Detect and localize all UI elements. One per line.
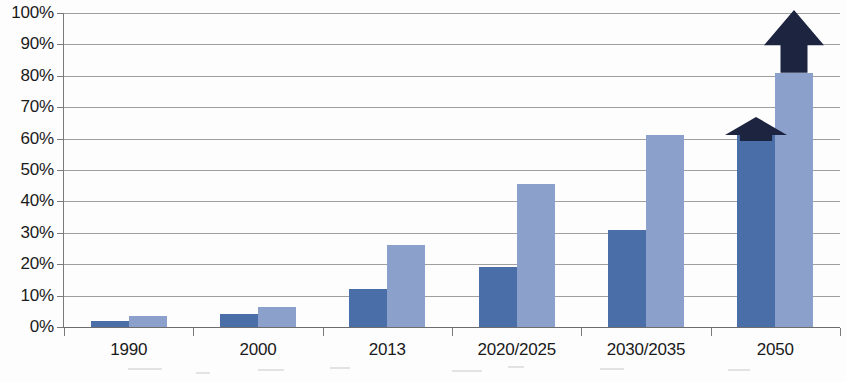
y-tick-mark-40 xyxy=(57,201,64,202)
x-tick-mark-5 xyxy=(711,328,712,336)
gridline-80 xyxy=(64,76,840,77)
scan-artifact-3 xyxy=(452,370,482,372)
scan-artifact-1 xyxy=(258,369,284,371)
scan-artifact-7 xyxy=(508,366,524,368)
gridline-30 xyxy=(64,233,840,234)
y-tick-label: 60% xyxy=(0,129,54,149)
bar-2013-series-2-light xyxy=(387,245,425,327)
y-tick-mark-20 xyxy=(57,264,64,265)
x-tick-mark-4 xyxy=(581,328,582,336)
y-tick-label: 90% xyxy=(0,34,54,54)
bar-2050-series-2-light xyxy=(775,73,813,327)
x-tick-mark-3 xyxy=(452,328,453,336)
bar-1990-series-2-light xyxy=(129,316,167,327)
y-tick-label: 0% xyxy=(0,317,54,337)
plot-area xyxy=(64,13,840,327)
y-tick-label: 80% xyxy=(0,66,54,86)
y-tick-label: 10% xyxy=(0,286,54,306)
bar-2020-2025-series-1-dark xyxy=(479,267,517,327)
scan-artifact-2 xyxy=(330,367,350,369)
scan-artifact-0 xyxy=(128,368,162,370)
y-tick-label: 20% xyxy=(0,254,54,274)
bar-2050-series-1-dark xyxy=(737,135,775,327)
bar-2020-2025-series-2-light xyxy=(517,184,555,327)
y-tick-mark-10 xyxy=(57,296,64,297)
y-tick-label: 30% xyxy=(0,223,54,243)
y-tick-mark-30 xyxy=(57,233,64,234)
x-tick-mark-1 xyxy=(193,328,194,336)
y-tick-label: 40% xyxy=(0,191,54,211)
scan-artifact-5 xyxy=(728,369,750,371)
growth-arrow-small xyxy=(725,117,787,142)
y-tick-label: 100% xyxy=(0,3,54,23)
gridline-50 xyxy=(64,170,840,171)
x-axis-label-1990: 1990 xyxy=(110,340,147,360)
scan-artifact-4 xyxy=(600,368,624,370)
growth-arrow-large xyxy=(764,10,824,73)
bar-2030-2035-series-2-light xyxy=(646,135,684,327)
bar-2000-series-1-dark xyxy=(220,314,258,327)
bar-2030-2035-series-1-dark xyxy=(608,230,646,327)
y-tick-mark-80 xyxy=(57,76,64,77)
gridline-40 xyxy=(64,201,840,202)
gridline-10 xyxy=(64,296,840,297)
x-axis-label-2030-2035: 2030/2035 xyxy=(607,340,686,360)
y-tick-mark-60 xyxy=(57,139,64,140)
y-tick-mark-100 xyxy=(57,13,64,14)
x-axis-label-2013: 2013 xyxy=(369,340,406,360)
y-tick-mark-50 xyxy=(57,170,64,171)
y-tick-mark-70 xyxy=(57,107,64,108)
bar-chart: 0%10%20%30%40%50%60%70%80%90%100% 199020… xyxy=(0,0,847,382)
gridline-90 xyxy=(64,44,840,45)
gridline-60 xyxy=(64,139,840,140)
y-tick-mark-90 xyxy=(57,44,64,45)
x-axis-label-2000: 2000 xyxy=(239,340,276,360)
x-tick-mark-0 xyxy=(64,328,65,336)
y-tick-label: 50% xyxy=(0,160,54,180)
x-tick-mark-2 xyxy=(323,328,324,336)
gridline-70 xyxy=(64,107,840,108)
x-tick-mark-6 xyxy=(840,328,841,336)
x-axis-label-2050: 2050 xyxy=(757,340,794,360)
gridline-20 xyxy=(64,264,840,265)
bar-2013-series-1-dark xyxy=(349,289,387,327)
y-tick-label: 70% xyxy=(0,97,54,117)
scan-artifact-6 xyxy=(196,372,210,374)
x-axis-label-2020-2025: 2020/2025 xyxy=(477,340,556,360)
bar-2000-series-2-light xyxy=(258,307,296,327)
gridline-100 xyxy=(64,13,840,14)
